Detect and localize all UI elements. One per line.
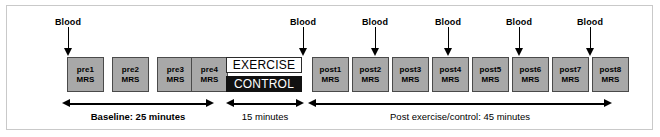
blood-label: Blood xyxy=(38,17,98,27)
mrs-box: pre1MRS xyxy=(67,57,104,92)
exercise-box: EXERCISE xyxy=(226,57,302,73)
mrs-box-timepoint: post6 xyxy=(520,65,542,75)
mrs-box-modality: MRS xyxy=(200,75,218,85)
mrs-box-modality: MRS xyxy=(401,75,419,85)
blood-marker: Blood xyxy=(345,17,405,56)
mrs-box: post2MRS xyxy=(352,57,389,92)
mrs-box-timepoint: post7 xyxy=(560,65,582,75)
mrs-box-modality: MRS xyxy=(321,75,339,85)
blood-down-arrow-icon xyxy=(64,27,73,56)
phase-label: Post exercise/control: 45 minutes xyxy=(390,111,530,122)
mrs-box: post3MRS xyxy=(392,57,429,92)
protocol-timeline-figure: BloodBloodBloodBloodBloodBlood pre1MRSpr… xyxy=(0,0,660,137)
mrs-box-modality: MRS xyxy=(481,75,499,85)
blood-label: Blood xyxy=(273,17,333,27)
blood-label: Blood xyxy=(560,17,620,27)
phase-span-arrow xyxy=(308,99,612,108)
mrs-box: post4MRS xyxy=(432,57,469,92)
arrow-head-right-icon xyxy=(206,99,214,107)
blood-down-arrow-icon xyxy=(371,27,380,56)
mrs-box: post6MRS xyxy=(512,57,549,92)
mrs-box-modality: MRS xyxy=(521,75,539,85)
mrs-box: pre4MRS xyxy=(191,57,228,92)
mrs-box: pre3MRS xyxy=(157,57,194,92)
blood-label: Blood xyxy=(345,17,405,27)
mrs-box-timepoint: post3 xyxy=(400,65,422,75)
arrow-head-left-icon xyxy=(308,99,316,107)
mrs-box-modality: MRS xyxy=(601,75,619,85)
blood-label: Blood xyxy=(489,17,549,27)
mrs-box-modality: MRS xyxy=(361,75,379,85)
phase-label: 15 minutes xyxy=(242,111,288,122)
control-label: CONTROL xyxy=(234,77,294,91)
arrow-head-right-icon xyxy=(604,99,612,107)
arrow-head-left-icon xyxy=(62,99,70,107)
mrs-box-timepoint: post4 xyxy=(440,65,462,75)
arrow-head-left-icon xyxy=(226,99,234,107)
blood-marker: Blood xyxy=(489,17,549,56)
control-box: CONTROL xyxy=(226,76,302,92)
blood-down-arrow-icon xyxy=(299,27,308,56)
mrs-box-timepoint: pre2 xyxy=(122,65,139,75)
arrow-head-right-icon xyxy=(296,99,304,107)
mrs-box-timepoint: post1 xyxy=(320,65,342,75)
mrs-box: post8MRS xyxy=(592,57,629,92)
phase-label: Baseline: 25 minutes xyxy=(91,111,186,122)
mrs-box: post1MRS xyxy=(312,57,349,92)
mrs-box-modality: MRS xyxy=(76,75,94,85)
blood-down-arrow-icon xyxy=(515,27,524,56)
blood-label: Blood xyxy=(418,17,478,27)
mrs-box-timepoint: pre3 xyxy=(167,65,184,75)
condition-stack: EXERCISE CONTROL xyxy=(226,57,302,92)
blood-marker: Blood xyxy=(560,17,620,56)
mrs-box-modality: MRS xyxy=(121,75,139,85)
mrs-box: pre2MRS xyxy=(112,57,149,92)
mrs-box: post5MRS xyxy=(472,57,509,92)
mrs-box-modality: MRS xyxy=(166,75,184,85)
blood-down-arrow-icon xyxy=(444,27,453,56)
mrs-box-timepoint: post8 xyxy=(600,65,622,75)
mrs-box-modality: MRS xyxy=(441,75,459,85)
phase-span-arrow xyxy=(226,99,304,108)
mrs-box-timepoint: post2 xyxy=(360,65,382,75)
blood-marker: Blood xyxy=(418,17,478,56)
blood-marker: Blood xyxy=(273,17,333,56)
mrs-box-timepoint: pre4 xyxy=(201,65,218,75)
blood-down-arrow-icon xyxy=(586,27,595,56)
exercise-label: EXERCISE xyxy=(233,58,295,72)
mrs-box: post7MRS xyxy=(552,57,589,92)
mrs-box-timepoint: post5 xyxy=(480,65,502,75)
mrs-box-modality: MRS xyxy=(561,75,579,85)
blood-marker: Blood xyxy=(38,17,98,56)
phase-span-arrow xyxy=(62,99,214,108)
mrs-box-timepoint: pre1 xyxy=(77,65,94,75)
